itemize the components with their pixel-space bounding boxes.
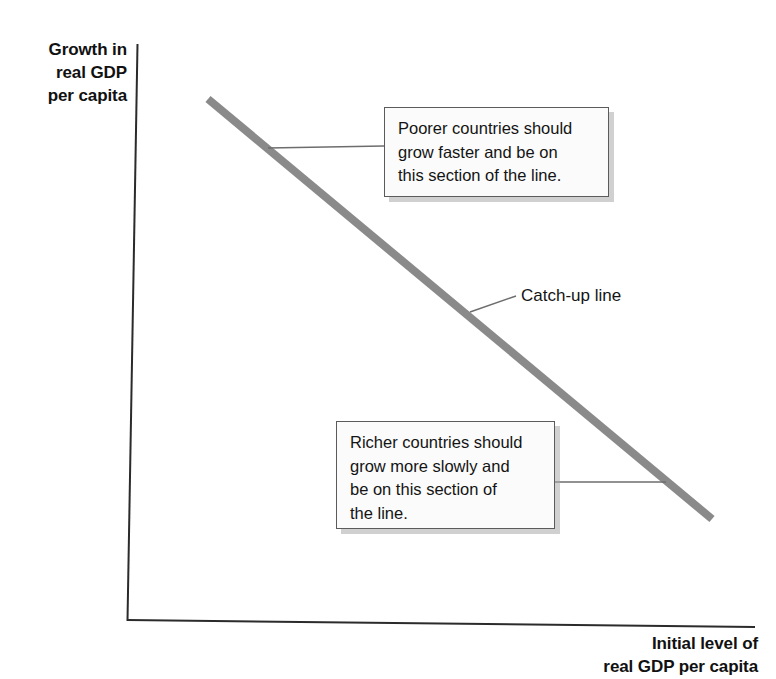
catch-up-line-figure: Growth in real GDP per capita Initial le…	[0, 0, 776, 679]
leader-line-poorer	[268, 146, 384, 148]
catch-up-line-label: Catch-up line	[521, 285, 621, 307]
plot-area	[0, 0, 776, 679]
leader-line-catchup	[470, 296, 516, 312]
callout-richer-countries: Richer countries should grow more slowly…	[336, 421, 555, 529]
callout-richer-countries-text: Richer countries should grow more slowly…	[350, 431, 542, 525]
y-axis-line	[128, 44, 138, 621]
callout-poorer-countries-text: Poorer countries should grow faster and …	[398, 117, 596, 188]
callout-poorer-countries: Poorer countries should grow faster and …	[384, 107, 609, 197]
x-axis-line	[128, 620, 756, 627]
